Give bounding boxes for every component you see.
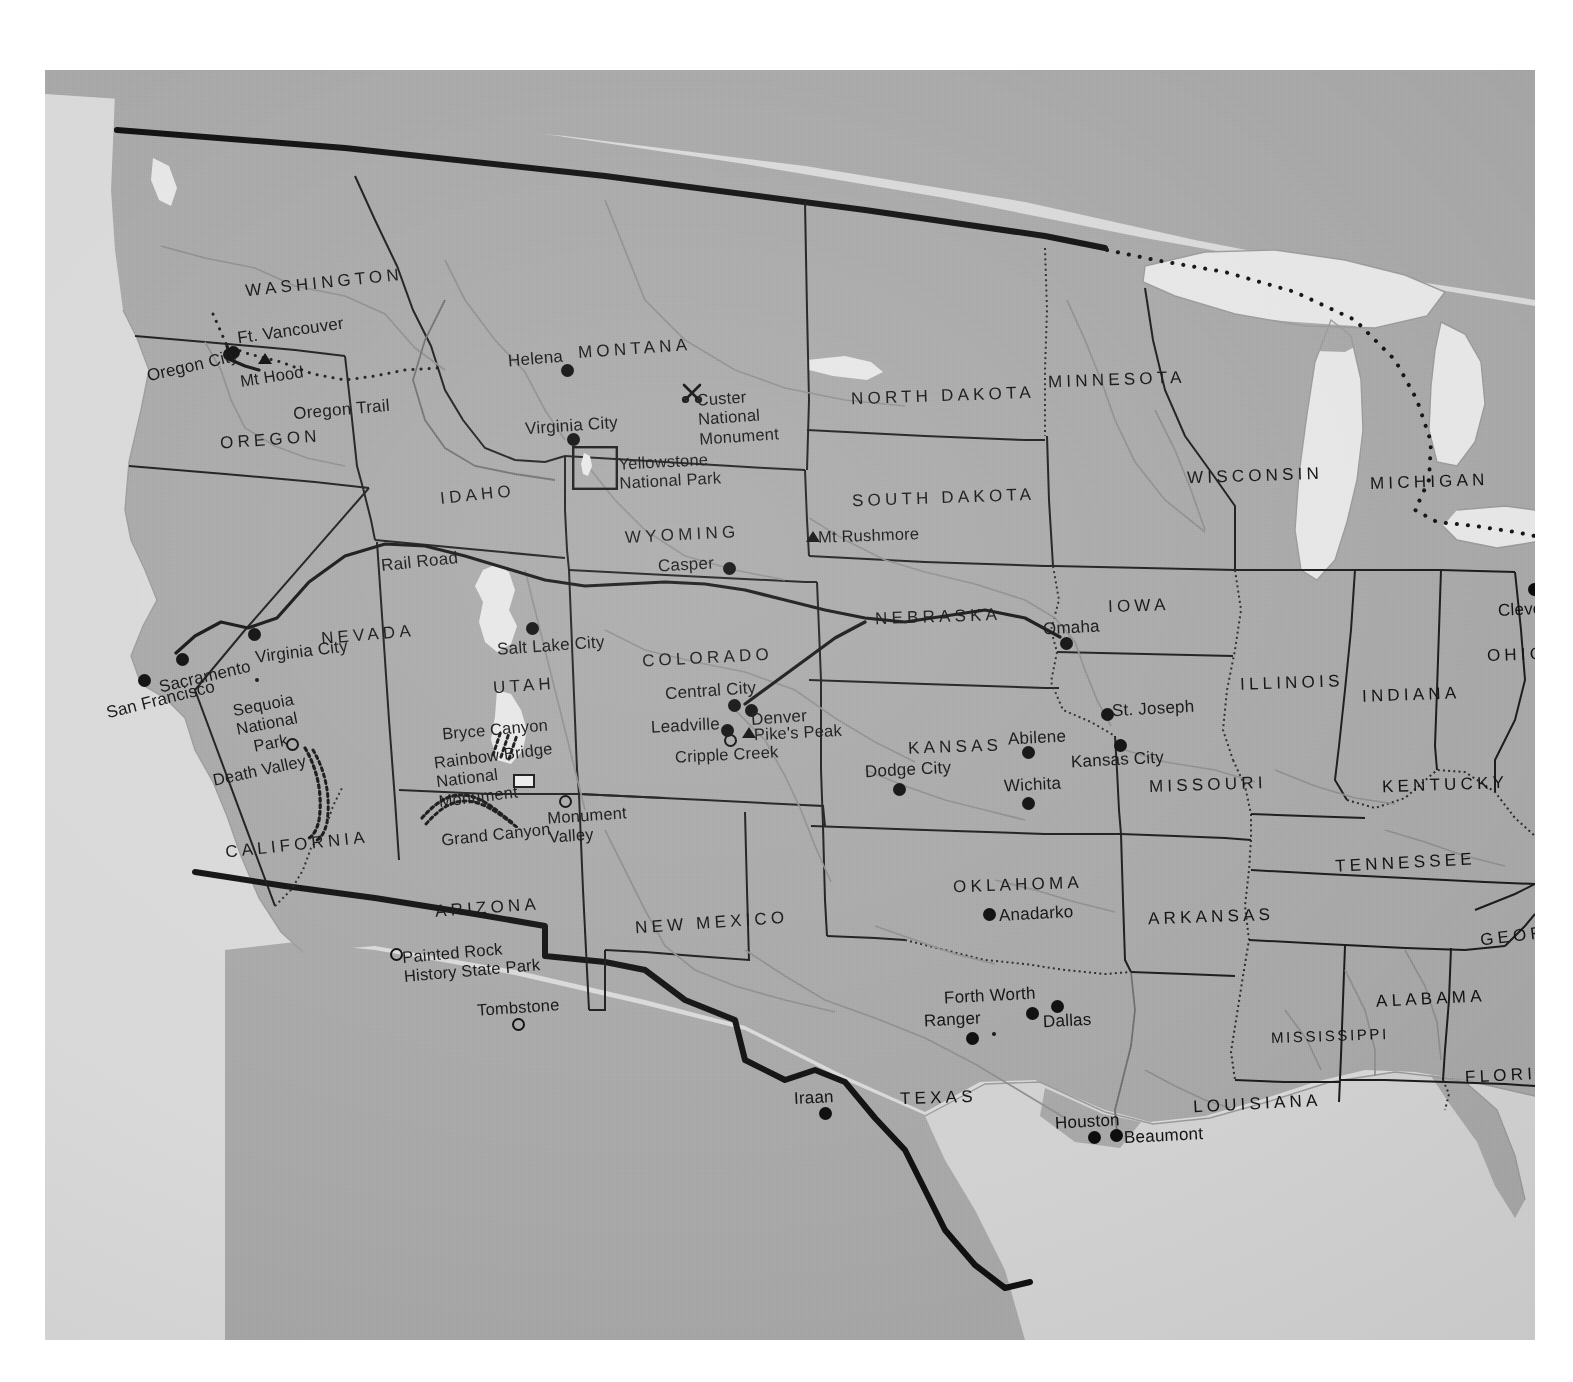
unlabeled-point-nevada xyxy=(255,678,259,682)
city-marker-omaha[interactable] xyxy=(1060,637,1073,650)
site-marker-tombstone[interactable] xyxy=(512,1018,525,1031)
city-marker-central-city[interactable] xyxy=(728,699,741,712)
site-label-custer-national-monument: Custer National Monument xyxy=(696,385,779,449)
city-label-anadarko: Anadarko xyxy=(999,902,1074,925)
city-label-abilene: Abilene xyxy=(1008,726,1067,748)
city-marker-casper[interactable] xyxy=(723,562,736,575)
city-marker-abilene[interactable] xyxy=(1022,746,1035,759)
death-valley-hachure-icon xyxy=(295,742,343,842)
city-marker-beaumont[interactable] xyxy=(1110,1129,1123,1142)
city-label-cleveland: Cleveland xyxy=(1498,597,1535,620)
peak-marker-mt-hood[interactable] xyxy=(258,353,272,364)
unlabeled-point-texas xyxy=(992,1032,996,1036)
city-label-leadville: Leadville xyxy=(651,714,721,737)
city-marker-anadarko[interactable] xyxy=(983,908,996,921)
city-label-ranger: Ranger xyxy=(924,1009,982,1031)
site-label-sequoia-national-park: Sequoia National Park xyxy=(231,690,303,759)
site-marker-monument-valley[interactable] xyxy=(559,795,572,808)
city-label-omaha: Omaha xyxy=(1043,617,1101,639)
yellowstone-boundary-box-icon xyxy=(572,446,618,494)
city-label-casper: Casper xyxy=(658,554,715,576)
state-label-indiana: INDIANA xyxy=(1362,683,1461,705)
city-marker-helena[interactable] xyxy=(561,364,574,377)
city-marker-iraan[interactable] xyxy=(819,1107,832,1120)
grand-canyon-hachure-icon xyxy=(418,782,538,828)
city-marker-salt-lake-city[interactable] xyxy=(526,622,539,635)
site-label-monument-valley: Monument Valley xyxy=(547,803,629,847)
state-label-iowa: IOWA xyxy=(1108,595,1170,616)
city-label-houston: Houston xyxy=(1055,1110,1121,1132)
state-label-ohio: OHIO xyxy=(1487,644,1535,665)
city-marker-cleveland[interactable] xyxy=(1528,583,1535,596)
city-marker-virginia-city-nv[interactable] xyxy=(248,628,261,641)
city-marker-san-francisco[interactable] xyxy=(138,674,151,687)
site-label-yellowstone-national-park: Yellowstone National Park xyxy=(618,449,722,493)
bryce-canyon-hachure-icon xyxy=(487,725,527,761)
map-plate: WASHINGTON OREGON IDAHO MONTANA WYOMING … xyxy=(45,70,1535,1340)
city-label-iraan: Iraan xyxy=(794,1087,835,1108)
map-figure: WASHINGTON OREGON IDAHO MONTANA WYOMING … xyxy=(0,0,1573,1382)
state-label-texas: TEXAS xyxy=(900,1087,977,1109)
city-marker-houston[interactable] xyxy=(1088,1131,1101,1144)
city-marker-wichita[interactable] xyxy=(1022,797,1035,810)
city-marker-forth-worth[interactable] xyxy=(1026,1007,1039,1020)
city-marker-sacramento[interactable] xyxy=(176,653,189,666)
city-marker-dodge-city[interactable] xyxy=(893,783,906,796)
site-label-mt-rushmore: Mt Rushmore xyxy=(818,524,920,546)
city-marker-ranger[interactable] xyxy=(966,1032,979,1045)
city-label-wichita: Wichita xyxy=(1004,774,1062,796)
city-label-dallas: Dallas xyxy=(1043,1010,1092,1032)
state-label-kansas: KANSAS xyxy=(908,735,1003,757)
state-label-illinois: ILLINOIS xyxy=(1240,671,1344,694)
